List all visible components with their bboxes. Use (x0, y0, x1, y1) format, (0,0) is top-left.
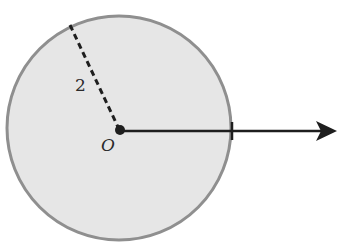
center-label: O (101, 135, 115, 155)
radius-label: 2 (75, 75, 86, 95)
circle-diagram: 2 O (0, 0, 346, 242)
diagram-canvas: 2 O (0, 0, 346, 242)
center-point (115, 125, 125, 135)
